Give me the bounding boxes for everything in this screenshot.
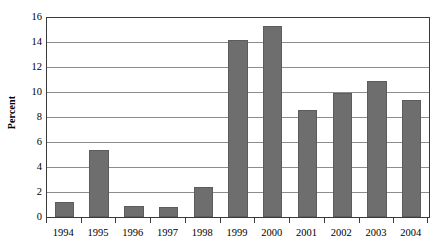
bar[interactable] bbox=[333, 93, 352, 217]
y-axis-tick-label: 6 bbox=[20, 137, 42, 147]
x-axis-tick-label: 1998 bbox=[185, 226, 220, 242]
bar-slot bbox=[325, 17, 360, 217]
y-axis-tick-label: 0 bbox=[20, 212, 42, 222]
bar[interactable] bbox=[298, 110, 317, 218]
x-axis-tick-label: 2000 bbox=[254, 226, 289, 242]
x-axis-tick-label: 1995 bbox=[81, 226, 116, 242]
y-axis-tick-label: 8 bbox=[20, 112, 42, 122]
x-axis-tick-label: 1996 bbox=[115, 226, 150, 242]
bar-chart: Percent 0246810121416 199419951996199719… bbox=[0, 0, 448, 248]
bar[interactable] bbox=[367, 81, 386, 217]
bar[interactable] bbox=[194, 187, 213, 217]
y-axis-title-label: Percent bbox=[7, 95, 18, 128]
y-axis-tick-label: 4 bbox=[20, 162, 42, 172]
x-axis-ticks bbox=[46, 218, 428, 223]
x-axis-tick bbox=[393, 218, 428, 223]
bar-slot bbox=[255, 17, 290, 217]
plot-area bbox=[46, 17, 430, 218]
y-axis-tick-label: 14 bbox=[20, 37, 42, 47]
bar-slot bbox=[360, 17, 395, 217]
x-axis-tick-label: 2002 bbox=[324, 226, 359, 242]
y-axis-tick-label: 16 bbox=[20, 12, 42, 22]
x-axis-tick bbox=[359, 218, 394, 223]
bar[interactable] bbox=[228, 40, 247, 218]
bar[interactable] bbox=[263, 26, 282, 217]
x-axis-tick-label: 2003 bbox=[359, 226, 394, 242]
x-axis-tick bbox=[289, 218, 324, 223]
bar-slot bbox=[116, 17, 151, 217]
y-axis-tick-labels: 0246810121416 bbox=[20, 12, 42, 222]
bars-layer bbox=[47, 17, 429, 217]
bar-slot bbox=[394, 17, 429, 217]
x-axis-tick bbox=[46, 218, 81, 223]
x-axis-tick-labels: 1994199519961997199819992000200120022003… bbox=[46, 226, 428, 242]
x-axis-tick bbox=[150, 218, 185, 223]
x-axis-tick bbox=[115, 218, 150, 223]
bar-slot bbox=[151, 17, 186, 217]
x-axis-tick bbox=[324, 218, 359, 223]
y-axis-tick-label: 12 bbox=[20, 62, 42, 72]
x-axis-tick-label: 1999 bbox=[220, 226, 255, 242]
y-axis-tick-label: 2 bbox=[20, 187, 42, 197]
y-axis-tick-label: 10 bbox=[20, 87, 42, 97]
x-axis-tick bbox=[81, 218, 116, 223]
x-axis-tick bbox=[220, 218, 255, 223]
x-axis-tick-label: 2001 bbox=[289, 226, 324, 242]
x-axis-tick-label: 1997 bbox=[150, 226, 185, 242]
x-axis-tick-label: 1994 bbox=[46, 226, 81, 242]
bar[interactable] bbox=[55, 202, 74, 217]
bar-slot bbox=[47, 17, 82, 217]
bar[interactable] bbox=[89, 150, 108, 218]
x-axis-tick-label: 2004 bbox=[393, 226, 428, 242]
bar-slot bbox=[186, 17, 221, 217]
bar-slot bbox=[221, 17, 256, 217]
bar-slot bbox=[290, 17, 325, 217]
x-axis-tick bbox=[254, 218, 289, 223]
bar[interactable] bbox=[159, 207, 178, 217]
x-axis-tick bbox=[185, 218, 220, 223]
bar[interactable] bbox=[402, 100, 421, 218]
bar-slot bbox=[82, 17, 117, 217]
bar[interactable] bbox=[124, 206, 143, 217]
